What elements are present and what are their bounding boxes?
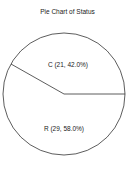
slice-label-r: R (29, 58.0%) [44,125,84,133]
pie-chart: C (21, 42.0%) R (29, 58.0%) [0,0,135,170]
slice-label-c: C (21, 42.0%) [48,61,88,69]
